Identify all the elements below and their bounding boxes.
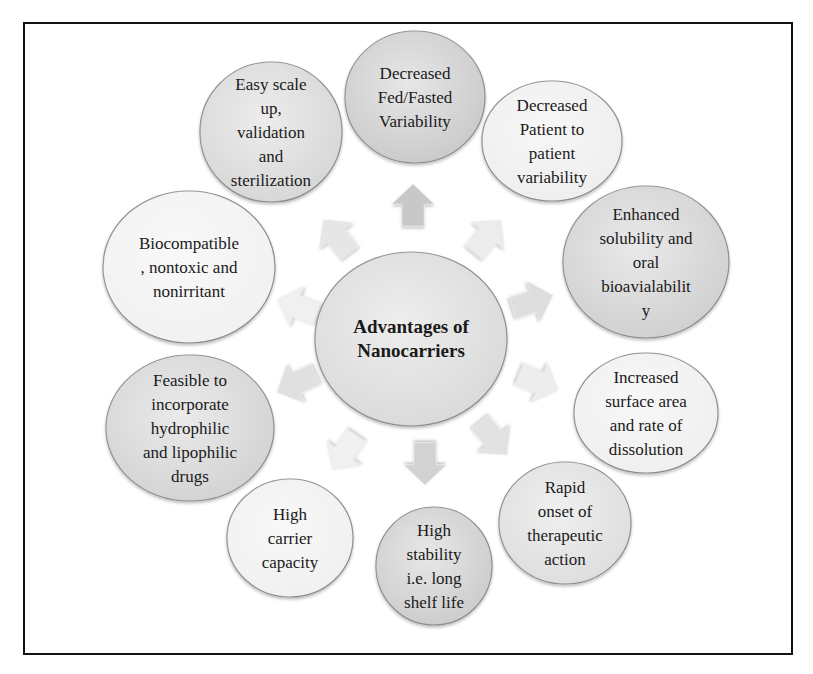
node-label-line: drugs [171, 467, 209, 486]
node-label-line: High [417, 521, 452, 540]
node-label-line: Easy scale [235, 75, 306, 94]
node-label-line: Increased [613, 368, 679, 387]
node-label-line: Enhanced [612, 205, 680, 224]
hub-advantages-of-nanocarriers: Advantages ofNanocarriers [315, 252, 507, 426]
node-label-line: Biocompatible [139, 234, 239, 253]
node-label-line: Decreased [380, 64, 451, 83]
node-label-line: Variability [379, 112, 451, 131]
node-hydrophilic-lipophilic: Feasible toincorporatehydrophilicand lip… [106, 355, 274, 501]
node-label-line: and lipophilic [143, 443, 237, 462]
node-label-line: shelf life [404, 593, 464, 612]
node-scale-up: Easy scaleup,validationandsterilization [200, 62, 342, 202]
hub-layer: Advantages ofNanocarriers [315, 252, 507, 426]
node-label-line: y [642, 301, 651, 320]
circle-highlight [315, 252, 507, 426]
node-label-line: solubility and [599, 229, 693, 248]
node-label-line: onset of [538, 502, 593, 521]
node-carrier-capacity: Highcarriercapacity [227, 479, 353, 597]
node-label-line: variability [517, 168, 587, 187]
arrow-icon-to-rapid-onset [464, 409, 523, 468]
node-label-line: bioavialabilit [601, 277, 691, 296]
node-label-line: Advantages of [353, 316, 469, 337]
arrow-icon-to-carrier-capacity [315, 424, 373, 482]
node-label-line: i.e. long [406, 569, 462, 588]
arrow-icon-to-solubility [506, 275, 559, 328]
node-biocompatible: Biocompatible, nontoxic andnonirritant [103, 191, 275, 343]
arrow-icon-to-surface-area [512, 355, 567, 410]
node-label-line: therapeutic [527, 526, 603, 545]
node-label-line: stability [407, 545, 462, 564]
node-label-line: hydrophilic [151, 419, 230, 438]
node-label-line: oral [633, 253, 660, 272]
arrow-icon-to-patient-variability [458, 207, 517, 266]
node-label-line: Nanocarriers [357, 340, 465, 361]
arrow-icon-to-scale-up [307, 207, 366, 266]
node-label-line: and rate of [610, 416, 683, 435]
node-label-line: capacity [262, 553, 319, 572]
node-label-line: Fed/Fasted [378, 88, 453, 107]
arrow-icon-to-high-stability [404, 443, 446, 485]
node-label-line: dissolution [609, 440, 684, 459]
arrow-icon-to-hydrophilic-lipophilic [268, 356, 324, 412]
node-high-stability: Highstabilityi.e. longshelf life [376, 507, 492, 625]
node-label-line: nonirritant [153, 282, 225, 301]
node-label-line: High [273, 505, 308, 524]
arrow-icon-to-fed-fasted [392, 184, 434, 226]
node-label-line: Decreased [517, 96, 588, 115]
node-label-line: action [544, 550, 586, 569]
node-label-line: incorporate [151, 395, 228, 414]
node-label-line: carrier [268, 529, 313, 548]
node-label-line: Feasible to [153, 371, 227, 390]
node-patient-variability: DecreasedPatient topatientvariability [482, 81, 622, 201]
node-fed-fasted: DecreasedFed/FastedVariability [345, 31, 485, 163]
node-label-line: , nontoxic and [141, 258, 238, 277]
node-label-line: surface area [605, 392, 687, 411]
node-solubility: Enhancedsolubility andoralbioavialabilit… [563, 186, 729, 338]
node-label-line: and [259, 147, 284, 166]
node-label-line: validation [237, 123, 305, 142]
node-label-line: patient [529, 144, 576, 163]
node-surface-area: Increasedsurface areaand rate ofdissolut… [574, 353, 718, 473]
node-label-line: Rapid [545, 478, 586, 497]
node-label-line: sterilization [231, 171, 312, 190]
node-rapid-onset: Rapidonset oftherapeuticaction [499, 462, 631, 584]
advantages-diagram: DecreasedFed/FastedVariabilityDecreasedP… [0, 0, 813, 674]
node-label-line: up, [260, 99, 281, 118]
node-label-line: Patient to [520, 120, 585, 139]
